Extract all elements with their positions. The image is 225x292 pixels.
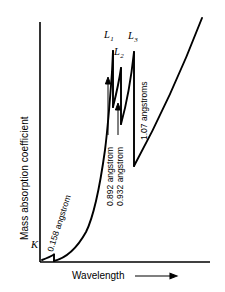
l1-edge-annotation: 0.892 angstrom	[106, 147, 115, 206]
l2-edge-label: L2	[114, 47, 123, 58]
curve-l2-to-l3	[121, 52, 134, 124]
l2-edge-annotation: 0.932 angstrom	[116, 147, 125, 206]
arrow-head-l1	[105, 77, 110, 84]
x-axis-arrow	[135, 273, 177, 279]
l3-edge-annotation: 1.07 angstroms	[140, 81, 149, 140]
l1-edge-label: L1	[104, 30, 113, 41]
l1-edge-label-subscript: 1	[110, 35, 114, 43]
curve-pre-k	[42, 255, 54, 261]
l2-edge-label-subscript: 2	[120, 52, 124, 60]
l3-edge-label: L3	[128, 31, 137, 42]
l1-edge-label-text: L	[104, 29, 110, 40]
curve-k-to-l1	[54, 72, 112, 261]
l3-edge-label-subscript: 3	[134, 36, 138, 44]
l3-edge-label-text: L	[128, 30, 134, 41]
k-edge-label: K	[31, 240, 38, 251]
x-axis-label: Wavelength	[72, 270, 124, 281]
arrow-right-icon-head	[170, 273, 177, 279]
y-axis-label: Mass absorption coefficient	[20, 116, 30, 240]
arrow-head-l2	[115, 103, 120, 110]
l2-edge-label-text: L	[114, 46, 120, 57]
xray-absorption-chart: Mass absorption coefficient Wavelength K…	[0, 0, 225, 292]
curve-l1-to-l2	[113, 68, 121, 107]
